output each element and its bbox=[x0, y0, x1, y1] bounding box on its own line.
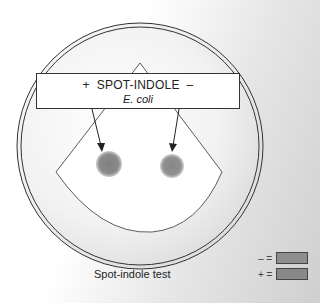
minus-sign: – bbox=[187, 78, 194, 92]
legend-swatch-negative bbox=[276, 252, 308, 264]
spot-positive bbox=[96, 151, 122, 177]
legend-symbol: + = bbox=[258, 269, 272, 280]
test-name: SPOT-INDOLE bbox=[97, 78, 180, 92]
legend-negative: – = bbox=[258, 252, 308, 264]
diagram-caption: Spot-indole test bbox=[94, 268, 170, 280]
plus-sign: + bbox=[83, 78, 90, 92]
legend-symbol: – = bbox=[258, 253, 272, 264]
label-title-row: +SPOT-INDOLE– bbox=[37, 78, 239, 92]
test-label-box: +SPOT-INDOLE– E. coli bbox=[36, 73, 240, 109]
legend-swatch-positive bbox=[276, 268, 308, 280]
legend-positive: + = bbox=[258, 268, 308, 280]
organism-name: E. coli bbox=[37, 93, 239, 105]
spot-negative bbox=[160, 154, 184, 178]
